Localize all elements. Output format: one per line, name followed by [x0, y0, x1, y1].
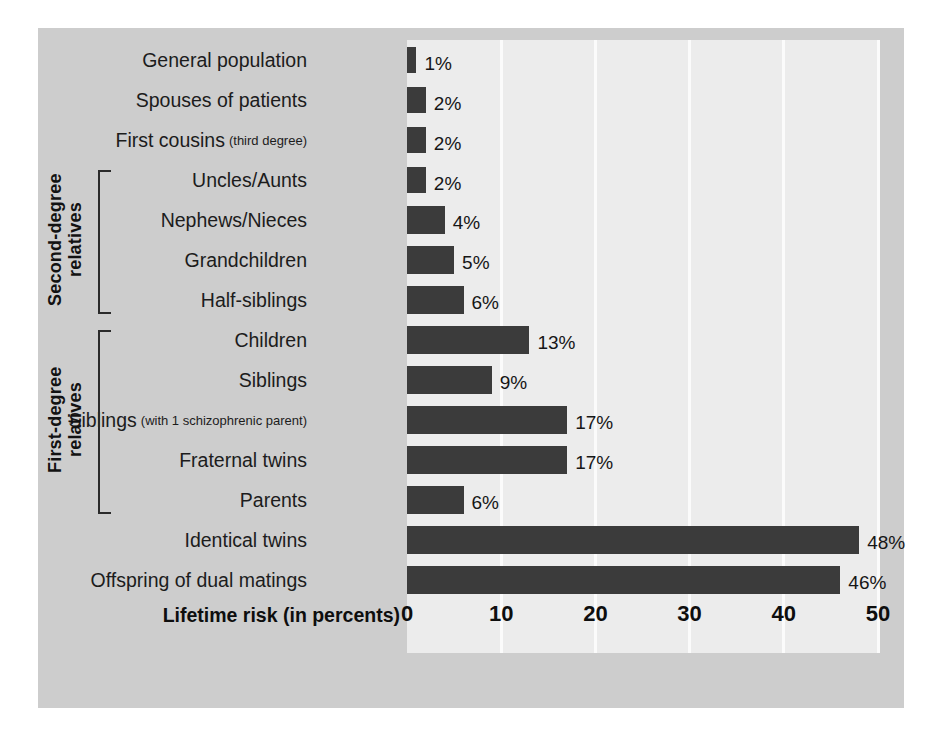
category-label: Half-siblings	[201, 280, 307, 320]
bar-row: Uncles/Aunts2%	[38, 160, 904, 200]
bar-row: Offspring of dual matings46%	[38, 560, 904, 600]
bar-value-label: 5%	[462, 252, 489, 274]
category-label: Nephews/Nieces	[161, 200, 307, 240]
bar-value-label: 9%	[500, 372, 527, 394]
bar-value-label: 13%	[537, 332, 575, 354]
tick-label-10: 10	[481, 601, 521, 627]
group-label: First-degreerelatives	[46, 330, 92, 510]
bar	[407, 47, 416, 73]
bar-row: Children13%	[38, 320, 904, 360]
category-label-text: Children	[234, 329, 307, 352]
category-label: Siblings	[239, 360, 307, 400]
bar	[407, 167, 426, 193]
bar-value-label: 6%	[472, 492, 499, 514]
group-label: Second-degreerelatives	[46, 170, 92, 310]
bar-row: Identical twins48%	[38, 520, 904, 560]
category-label-text: Fraternal twins	[179, 449, 307, 472]
category-label: Grandchildren	[185, 240, 307, 280]
category-label-note: (with 1 schizophrenic parent)	[141, 413, 307, 428]
category-label: Identical twins	[185, 520, 307, 560]
bar-row: First cousins(third degree)2%	[38, 120, 904, 160]
bar-value-label: 48%	[867, 532, 905, 554]
tick-label-40: 40	[764, 601, 804, 627]
bar-value-label: 4%	[453, 212, 480, 234]
category-label: General population	[142, 40, 307, 80]
category-label-text: Parents	[240, 489, 307, 512]
tick-label-30: 30	[670, 601, 710, 627]
bar	[407, 566, 840, 594]
bar-value-label: 6%	[472, 292, 499, 314]
category-label-text: Spouses of patients	[136, 89, 307, 112]
group-label-line1: Second-degree	[46, 170, 66, 310]
x-axis-title: Lifetime risk (in percents)	[103, 604, 400, 627]
bar	[407, 87, 426, 113]
bar-row: General population1%	[38, 40, 904, 80]
category-label: First cousins(third degree)	[116, 120, 308, 160]
bar-row: Parents6%	[38, 480, 904, 520]
bar-row: Siblings(with 1 schizophrenic parent)17%	[38, 400, 904, 440]
category-label-text: Half-siblings	[201, 289, 307, 312]
bar	[407, 206, 445, 234]
bar	[407, 246, 454, 274]
group-label-line2: relatives	[66, 330, 86, 510]
category-label-text: Offspring of dual matings	[91, 569, 307, 592]
bar	[407, 366, 492, 394]
tick-label-50: 50	[858, 601, 898, 627]
category-label: Children	[234, 320, 307, 360]
category-label-text: Grandchildren	[185, 249, 307, 272]
category-label: Uncles/Aunts	[192, 160, 307, 200]
group-bracket	[98, 330, 111, 514]
bar-row: Grandchildren5%	[38, 240, 904, 280]
category-label-text: Identical twins	[185, 529, 307, 552]
bar-row: Nephews/Nieces4%	[38, 200, 904, 240]
bar-value-label: 46%	[848, 572, 886, 594]
category-label-text: Uncles/Aunts	[192, 169, 307, 192]
chart-panel: General population1%Spouses of patients2…	[38, 28, 904, 708]
bar	[407, 406, 567, 434]
bar	[407, 326, 529, 354]
bar-value-label: 17%	[575, 412, 613, 434]
bar	[407, 486, 464, 514]
category-label-text: Siblings	[239, 369, 307, 392]
tick-label-0: 0	[387, 601, 427, 627]
bar	[407, 446, 567, 474]
bar	[407, 526, 859, 554]
bar-value-label: 2%	[434, 133, 461, 155]
bar	[407, 127, 426, 153]
bar-row: Spouses of patients2%	[38, 80, 904, 120]
category-label-note: (third degree)	[229, 133, 307, 148]
bar-row: Half-siblings6%	[38, 280, 904, 320]
group-bracket	[98, 170, 111, 314]
figure: General population1%Spouses of patients2…	[0, 0, 938, 737]
category-label: Parents	[240, 480, 307, 520]
bar-value-label: 2%	[434, 93, 461, 115]
group-label-line1: First-degree	[46, 330, 66, 510]
category-label-text: First cousins	[116, 129, 225, 152]
category-label-text: General population	[142, 49, 307, 72]
bar-row: Fraternal twins17%	[38, 440, 904, 480]
bar-value-label: 1%	[424, 53, 451, 75]
category-label-text: Nephews/Nieces	[161, 209, 307, 232]
category-label: Fraternal twins	[179, 440, 307, 480]
bar-row: Siblings9%	[38, 360, 904, 400]
group-label-line2: relatives	[66, 170, 86, 310]
category-label: Offspring of dual matings	[91, 560, 307, 600]
tick-label-20: 20	[575, 601, 615, 627]
bar	[407, 286, 464, 314]
category-label: Spouses of patients	[136, 80, 307, 120]
bar-value-label: 2%	[434, 173, 461, 195]
bar-value-label: 17%	[575, 452, 613, 474]
